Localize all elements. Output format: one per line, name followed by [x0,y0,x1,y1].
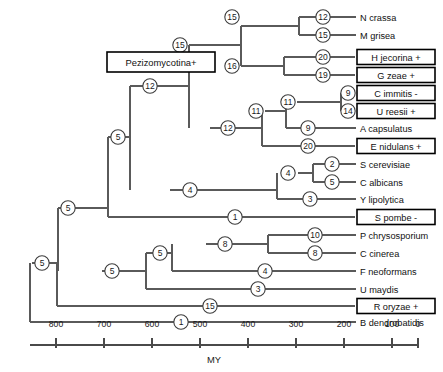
support-circle-c-albicans-value: 5 [330,177,335,187]
axis-tick-label-700: 700 [97,319,112,329]
support-circle-m-grisea-value: 15 [318,30,328,40]
support-circle-p-chrysosporium-value: 10 [310,230,320,240]
support-circle-node-ascomycota-crown-value: 5 [116,132,121,142]
axis-tick-label-0: 0 [416,319,421,329]
axis-tick-label-800: 800 [49,319,64,329]
tip-label-c-immitis--: C immitis - [374,89,417,99]
support-circle-node-agaricomycotina-value: 5 [158,248,163,258]
axis-title: MY [207,354,222,365]
tip-label-h-jecorina-+: H jecorina + [371,53,420,63]
tip-label-y-lipolytica: Y lipolytica [360,195,405,205]
tip-label-u-reesii-+: U reesii + [376,107,415,117]
support-circle-c-immitis---value: 9 [346,88,351,98]
axis-tick-label-200: 200 [337,319,352,329]
support-circle-b-dendrobatidis-value: 1 [179,317,184,327]
tip-label-g-zeae-+: G zeae + [377,71,415,81]
support-circle-node-cimmitis-ureesii-value: 11 [284,97,293,107]
tip-label-p-chrysosporium: P chrysosporium [360,231,429,241]
support-circle-a-capsulatus-value: 9 [306,123,311,133]
axis-tick-label-600: 600 [145,319,160,329]
support-circle-n-crassa-value: 12 [318,12,328,22]
support-circle-node-ascomycota-value: 5 [66,203,71,213]
support-circle-c-cinerea-value: 8 [313,248,318,258]
support-circle-node-scerevisiae-calbicans-value: 4 [286,168,291,178]
pezizomycotina-clade-label: Pezizomycotina+ [125,57,197,68]
tip-label-s-pombe--: S pombe - [375,213,417,223]
support-circle-u-reesii-+-value: 14 [343,106,353,116]
axis-tick-label-400: 400 [241,319,256,329]
support-circle-node-dikarya-root-value: 5 [40,258,45,268]
support-circle-node-onygenales-value: 11 [252,106,261,116]
phylogenetic-tree-figure: N crassaM griseaH jecorina +G zeae +C im… [0,0,443,372]
support-circle-node-ncrassa-mgrisea-value: 15 [227,12,237,22]
tip-label-m-grisea: M grisea [360,31,396,41]
support-circle-u-maydis-value: 3 [256,284,261,294]
support-circle-y-lipolytica-value: 3 [308,194,313,204]
axis-tick-label-500: 500 [193,319,208,329]
tip-label-r-oryzae-+: R oryzae + [374,302,419,312]
axis-tick-label-100: 100 [385,319,400,329]
tip-label-s-cerevisiae: S cerevisiae [360,160,410,170]
support-circle-node-eurotiomycetes-value: 12 [223,123,233,133]
axis-tick-label-300: 300 [289,319,304,329]
support-circle-node-basidiomycota-value: 5 [110,266,115,276]
support-circle-e-nidulans-+-value: 20 [303,141,313,151]
tip-label-u-maydis: U maydis [360,285,399,295]
tip-label-f-neoformans: F neoformans [360,267,417,277]
tip-label-n-crassa: N crassa [360,13,397,23]
support-circle-r-oryzae-+-value: 15 [205,301,215,311]
support-circle-h-jecorina-+-value: 20 [318,52,328,62]
clade-label-box: Pezizomycotina+ [107,52,215,72]
support-circle-node-sordariomycetes-value: 15 [175,40,185,50]
support-circle-node-hjecorina-gzeae-value: 16 [227,61,237,71]
support-circle-node-pezizomycotina-value: 12 [145,81,155,91]
support-circle-node-saccharomycotina-value: 4 [188,185,193,195]
support-circle-g-zeae-+-value: 19 [318,70,328,80]
tip-label-c-albicans: C albicans [360,178,403,188]
tree-svg: N crassaM griseaH jecorina +G zeae +C im… [0,0,443,372]
support-circle-s-pombe---value: 1 [233,212,238,222]
tip-label-a-capsulatus: A capsulatus [360,124,413,134]
tip-label-e-nidulans-+: E nidulans + [371,142,422,152]
support-circle-s-cerevisiae-value: 2 [330,159,335,169]
support-circle-f-neoformans-value: 4 [263,266,268,276]
tip-boxes: N crassaM griseaH jecorina +G zeae +C im… [357,13,435,328]
tip-label-c-cinerea: C cinerea [360,249,400,259]
support-circle-node-pchrys-ccinerea-value: 8 [223,239,228,249]
